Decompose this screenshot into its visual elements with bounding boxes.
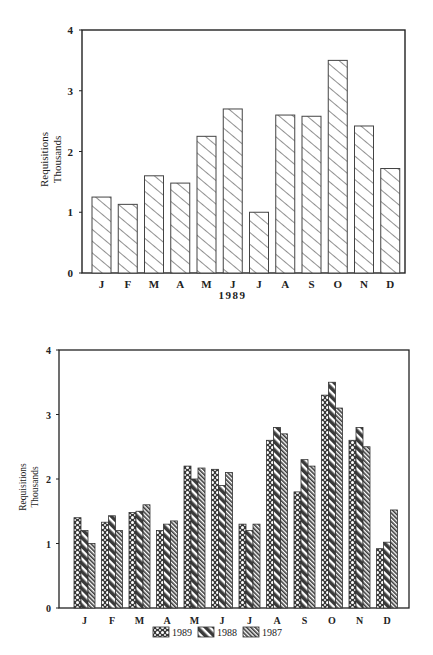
- x-tick-label: O: [328, 615, 336, 626]
- y-tick-label: 4: [68, 24, 74, 36]
- bar-D-11: [381, 169, 400, 273]
- x-tick-label: O: [333, 278, 342, 290]
- bar-1988-J-0: [81, 531, 88, 608]
- bar-1989-J-6: [239, 524, 246, 608]
- x-tick-label: J: [99, 278, 105, 290]
- x-tick-label: A: [163, 615, 171, 626]
- bar-1988-D-11: [384, 542, 391, 608]
- x-tick-label: J: [256, 278, 262, 290]
- y-tick-label: 1: [46, 539, 51, 550]
- x-tick-label: J: [82, 615, 87, 626]
- bar-N-10: [355, 126, 374, 273]
- bar-M-2: [145, 176, 164, 273]
- legend-label-1989: 1989: [172, 627, 192, 638]
- x-tick-label: S: [308, 278, 314, 290]
- bar-1989-O-9: [322, 395, 329, 608]
- bar-1988-A-7: [274, 427, 281, 608]
- bar-1989-F-1: [102, 522, 109, 608]
- bar-1987-M-4: [198, 468, 205, 608]
- y-tick-label: 0: [46, 603, 51, 614]
- bar-A-3: [171, 183, 190, 273]
- bar-1989-A-7: [267, 440, 274, 608]
- x-tick-label: A: [273, 615, 281, 626]
- legend-swatch-1989: [153, 627, 169, 637]
- bar-J-0: [92, 197, 111, 273]
- x-tick-label: D: [386, 278, 394, 290]
- x-tick-label: F: [109, 615, 115, 626]
- legend-swatch-1988: [198, 627, 214, 637]
- bar-1988-O-9: [329, 382, 336, 608]
- x-tick-label: M: [135, 615, 145, 626]
- bar-1987-N-10: [363, 447, 370, 608]
- x-tick-label: J: [247, 615, 252, 626]
- bar-1987-D-11: [391, 510, 398, 608]
- y-tick-label: 4: [46, 345, 51, 356]
- bar-O-9: [328, 60, 347, 273]
- y-tick-label: 2: [68, 146, 74, 158]
- bar-1989-N-10: [349, 440, 356, 608]
- bar-J-6: [250, 212, 269, 273]
- x-tick-label: M: [190, 615, 200, 626]
- y-tick-label: 1: [68, 206, 74, 218]
- bar-1988-J-5: [219, 485, 226, 608]
- x-tick-label: A: [281, 278, 289, 290]
- bar-1987-S-8: [308, 466, 315, 608]
- bar-1988-N-10: [356, 427, 363, 608]
- bar-1989-S-8: [294, 492, 301, 608]
- bar-1987-F-1: [116, 531, 123, 608]
- bar-1987-A-7: [281, 434, 288, 608]
- bar-F-1: [118, 204, 137, 273]
- y-axis-label: RequisitionsThousands: [38, 132, 63, 187]
- bar-1989-M-2: [129, 513, 136, 608]
- legend: 198919881987: [153, 627, 282, 638]
- y-tick-label: 0: [68, 267, 74, 279]
- legend-label-1988: 1988: [217, 627, 237, 638]
- x-tick-label: M: [149, 278, 160, 290]
- bar-1988-A-3: [164, 524, 171, 608]
- bar-1988-S-8: [301, 460, 308, 608]
- x-tick-label: N: [360, 278, 368, 290]
- y-tick-label: 3: [46, 410, 51, 421]
- requisitions-charts: 01234JFMAMJJASOND1989RequisitionsThousan…: [0, 0, 433, 655]
- bar-M-4: [197, 136, 216, 273]
- x-tick-label: A: [176, 278, 184, 290]
- bar-1988-F-1: [109, 516, 116, 608]
- bar-S-8: [302, 116, 321, 273]
- bar-1989-A-3: [157, 531, 164, 608]
- bar-1987-J-5: [226, 473, 233, 608]
- x-tick-label: S: [302, 615, 308, 626]
- y-tick-label: 2: [46, 474, 51, 485]
- bar-1988-J-6: [246, 531, 253, 608]
- bar-1987-J-0: [88, 544, 95, 609]
- bottom-grouped-bar-chart: 01234JFMAMJJASONDRequisitionsThousands19…: [18, 345, 409, 638]
- top-bar-chart-1989: 01234JFMAMJJASOND1989RequisitionsThousan…: [38, 24, 405, 301]
- bar-J-5: [223, 109, 242, 273]
- bar-1987-M-2: [143, 505, 150, 608]
- bar-1989-J-0: [74, 518, 81, 608]
- x-tick-label: N: [356, 615, 364, 626]
- x-tick-label: J: [220, 615, 225, 626]
- bar-1987-A-3: [171, 521, 178, 608]
- legend-label-1987: 1987: [262, 627, 282, 638]
- bar-A-7: [276, 115, 295, 273]
- bar-1989-M-4: [184, 466, 191, 608]
- legend-swatch-1987: [243, 627, 259, 637]
- y-tick-label: 3: [68, 85, 74, 97]
- bar-1989-D-11: [377, 549, 384, 608]
- y-axis-label: RequisitionsThousands: [18, 463, 40, 511]
- bar-1988-M-4: [191, 479, 198, 608]
- x-tick-label: F: [124, 278, 131, 290]
- x-tick-label: D: [383, 615, 390, 626]
- bar-1989-J-5: [212, 469, 219, 608]
- bar-1987-O-9: [336, 408, 343, 608]
- bar-1988-M-2: [136, 511, 143, 608]
- x-tick-label: M: [201, 278, 212, 290]
- x-axis-label: 1989: [219, 289, 247, 301]
- bar-1987-J-6: [253, 524, 260, 608]
